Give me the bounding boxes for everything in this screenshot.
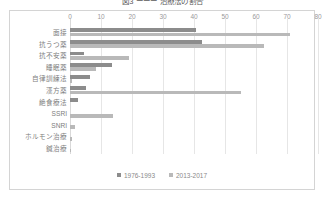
bar-row: 睡眠薬 <box>10 62 314 74</box>
bar-2013-2017 <box>70 33 290 37</box>
x-tick-label: 50 <box>221 13 228 20</box>
legend-swatch-icon <box>169 173 173 177</box>
bar-row: ホルモン治療 <box>10 131 314 143</box>
bar-rows: 面接抗うつ薬抗不安薬睡眠薬自律訓練法漢方薬絶食療法SSRISNRIホルモン治療鍼… <box>10 27 314 155</box>
plot-area: 01020304050607080 面接抗うつ薬抗不安薬睡眠薬自律訓練法漢方薬絶… <box>10 11 314 189</box>
bar-row: 自律訓練法 <box>10 73 314 85</box>
category-label: ホルモン治療 <box>0 131 67 143</box>
category-label: 面接 <box>0 27 67 39</box>
bar-group <box>70 50 314 62</box>
chart-screenshot: 図3 ーーー 治療法の割合 01020304050607080 面接抗うつ薬抗不… <box>0 0 325 200</box>
bar-group <box>70 97 314 109</box>
bar-2013-2017 <box>70 149 71 153</box>
bar-group <box>70 85 314 97</box>
x-axis: 01020304050607080 <box>10 13 314 25</box>
bar-row: 鍼治療 <box>10 143 314 155</box>
x-tick-label: 60 <box>252 13 259 20</box>
bar-2013-2017 <box>70 44 264 48</box>
bar-row: 漢方薬 <box>10 85 314 97</box>
bar-row: SNRI <box>10 120 314 132</box>
bar-1976-1993 <box>70 98 78 102</box>
bar-row: 絶食療法 <box>10 97 314 109</box>
legend-item[interactable]: 2013-2017 <box>169 171 207 179</box>
legend-label: 2013-2017 <box>176 172 207 179</box>
x-tick-label: 80 <box>314 13 321 20</box>
bar-group <box>70 39 314 51</box>
bar-2013-2017 <box>70 125 75 129</box>
x-tick-label: 40 <box>190 13 197 20</box>
x-tick-label: 20 <box>128 13 135 20</box>
category-label: 鍼治療 <box>0 143 67 155</box>
bar-2013-2017 <box>70 79 72 83</box>
gridline-80 <box>318 19 319 154</box>
chart-legend: 1976-19932013-2017 <box>10 171 314 179</box>
bar-group <box>70 143 314 155</box>
category-label: 抗不安薬 <box>0 50 67 62</box>
bar-group <box>70 62 314 74</box>
bar-2013-2017 <box>70 56 129 60</box>
bar-group <box>70 27 314 39</box>
legend-item[interactable]: 1976-1993 <box>117 171 155 179</box>
bar-row: SSRI <box>10 108 314 120</box>
x-tick-label: 10 <box>97 13 104 20</box>
bar-2013-2017 <box>70 114 113 118</box>
category-label: 絶食療法 <box>0 97 67 109</box>
bar-2013-2017 <box>70 91 241 95</box>
bar-2013-2017 <box>70 137 72 141</box>
category-label: 自律訓練法 <box>0 73 67 85</box>
category-label: 睡眠薬 <box>0 62 67 74</box>
legend-label: 1976-1993 <box>124 172 155 179</box>
category-label: 抗うつ薬 <box>0 39 67 51</box>
bar-group <box>70 131 314 143</box>
bar-row: 抗うつ薬 <box>10 39 314 51</box>
x-tick-label: 30 <box>159 13 166 20</box>
category-label: SNRI <box>0 120 67 132</box>
bar-group <box>70 73 314 85</box>
legend-swatch-icon <box>117 173 121 177</box>
category-label: 漢方薬 <box>0 85 67 97</box>
bar-row: 抗不安薬 <box>10 50 314 62</box>
chart-title: 図3 ーーー 治療法の割合 <box>0 0 325 5</box>
bar-group <box>70 108 314 120</box>
chart-frame: 01020304050607080 面接抗うつ薬抗不安薬睡眠薬自律訓練法漢方薬絶… <box>9 10 315 190</box>
bar-group <box>70 120 314 132</box>
bar-2013-2017 <box>70 67 96 71</box>
bar-row: 面接 <box>10 27 314 39</box>
category-label: SSRI <box>0 108 67 120</box>
x-tick-label: 0 <box>68 13 72 20</box>
x-tick-label: 70 <box>283 13 290 20</box>
bar-1976-1993 <box>70 75 90 79</box>
